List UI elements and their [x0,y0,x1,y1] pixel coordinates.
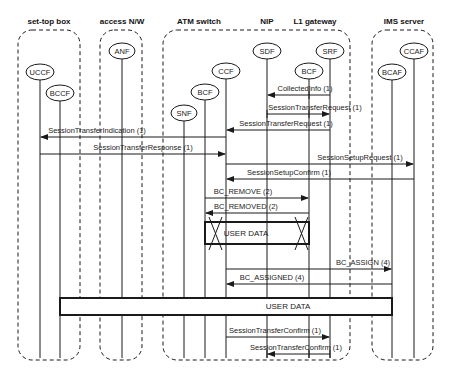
node-snf: SNF [171,105,197,121]
label-collectedinfo: CollectedInfo (1) [277,84,333,93]
label-bc-assign: BC_ASSIGN (4) [336,258,391,267]
group-label-l1-gateway: L1 gateway [293,17,337,26]
label-sessiontransferrequest-2: SessionTransferRequest (1) [239,119,333,128]
group-label-nip: NIP [260,17,274,26]
node-uccf: UCCF [26,64,54,80]
nodes: UCCF BCCF ANF SNF BCF CCF SDF BCF [26,43,428,121]
svg-text:UCCF: UCCF [30,68,51,77]
node-sdf: SDF [253,43,281,59]
label-sessiontransferresponse: SessionTransferResponse (1) [93,143,193,152]
svg-text:BCAF: BCAF [382,68,402,77]
label-bc-assigned: BC_ASSIGNED (4) [240,273,305,282]
node-ccaf: CCAF [400,43,428,59]
label-sessiontransferindication: SessionTransferIndication (1) [48,126,146,135]
svg-text:SRF: SRF [323,47,338,56]
node-bcaf: BCAF [378,64,406,80]
group-label-set-top-box: set-top box [27,17,71,26]
node-srf: SRF [316,43,344,59]
label-sessiontransferconfirm-2: SessionTransferConfirm (1) [250,343,342,352]
node-bcf-l1: BCF [295,63,323,79]
label-sessionsetupconfirm: SessionSetupConfirm (1) [247,168,331,177]
label-bc-remove: BC_REMOVE (2) [214,187,273,196]
sequence-diagram: set-top box access N/W ATM switch NIP L1… [0,0,449,389]
user-data-label-1: USER DATA [224,229,269,238]
node-bcf-atm: BCF [191,84,219,100]
user-data-label-2: USER DATA [266,302,311,311]
label-sessiontransferrequest-1: SessionTransferRequest (1) [268,103,362,112]
node-bccf: BCCF [46,85,74,101]
user-data-box-assigned: USER DATA [60,298,392,315]
group-label-atm-switch: ATM switch [177,17,221,26]
user-data-box-removed: USER DATA [205,217,309,250]
svg-text:BCF: BCF [302,67,317,76]
group-headers: set-top box access N/W ATM switch NIP L1… [27,17,424,26]
group-label-ims-server: IMS server [384,17,424,26]
svg-text:BCCF: BCCF [50,89,71,98]
node-ccf: CCF [212,63,240,79]
label-bc-removed: BC_REMOVED (2) [214,202,278,211]
svg-text:SNF: SNF [177,109,192,118]
svg-text:BCF: BCF [198,88,213,97]
label-sessiontransferconfirm-1: SessionTransferConfirm (1) [229,326,321,335]
group-label-access-nw: access N/W [100,17,145,26]
node-anf: ANF [109,43,135,59]
svg-text:ANF: ANF [115,47,130,56]
svg-text:CCAF: CCAF [404,47,425,56]
label-sessionsetuprequest: SessionSetupRequest (1) [317,153,403,162]
svg-text:SDF: SDF [260,47,275,56]
svg-text:CCF: CCF [218,67,234,76]
